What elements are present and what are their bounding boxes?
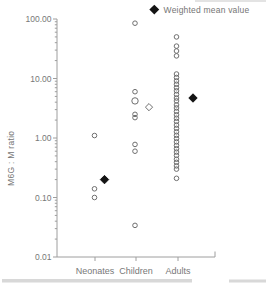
data-point-circle [92, 133, 97, 138]
data-point-circle [174, 49, 179, 54]
data-point-circle [133, 223, 138, 228]
data-point-circle [132, 98, 138, 104]
scan-artifact [195, 0, 266, 2]
data-point-circle [174, 54, 179, 59]
scan-artifact [229, 280, 266, 283]
legend: Weighted mean value [151, 3, 249, 16]
y-tick-label: 1.00 [35, 133, 52, 143]
y-axis-title: M6G : M ratio [6, 131, 16, 186]
legend-label: Weighted mean value [164, 5, 250, 15]
weighted-mean-diamond [189, 94, 197, 102]
scan-artifact [2, 279, 192, 283]
data-point-circle [174, 35, 179, 40]
data-point-circle [92, 187, 97, 192]
category-label: Neonates [76, 266, 115, 276]
y-tick-label: 100.00 [26, 14, 52, 24]
data-point-circle [133, 149, 138, 154]
category-label: Adults [165, 266, 191, 276]
legend-filled-diamond-icon [150, 5, 159, 14]
figure: 100.0010.001.000.100.01NeonatesChildrenA… [0, 0, 266, 283]
scatter-plot: 100.0010.001.000.100.01NeonatesChildrenA… [0, 0, 266, 283]
y-tick-label: 0.10 [35, 193, 52, 203]
data-point-circle [133, 142, 138, 147]
y-tick-label: 10.00 [30, 74, 52, 84]
data-point-circle [174, 176, 179, 181]
data-point-circle [133, 21, 138, 26]
data-point-circle [133, 89, 138, 94]
data-point-circle [174, 44, 179, 49]
y-tick-label: 0.01 [35, 252, 52, 262]
category-label: Children [119, 266, 153, 276]
weighted-mean-diamond [100, 175, 108, 183]
data-point-circle [92, 195, 97, 200]
data-point-circle [133, 115, 138, 120]
children-mean-open-diamond [145, 104, 152, 111]
data-point-circle [174, 167, 179, 172]
